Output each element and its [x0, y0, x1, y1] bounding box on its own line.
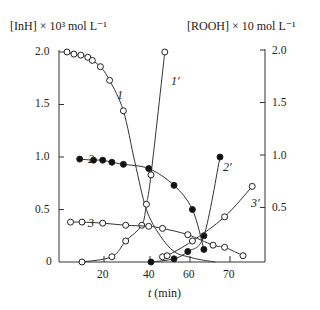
curve-label: 1 — [117, 88, 123, 103]
data-point — [68, 219, 74, 225]
data-point — [120, 161, 126, 167]
x-tick-70: 70 — [223, 268, 235, 280]
y-left-tick-2: 2.0 — [35, 45, 49, 57]
x-tick-40: 40 — [143, 268, 155, 280]
data-point — [210, 242, 216, 248]
curve-label: 2 — [88, 152, 94, 167]
curve-3 — [71, 222, 244, 256]
left-axis-label: [InH] × 10³ mol L⁻¹ — [10, 19, 107, 34]
data-point — [148, 259, 154, 265]
data-point — [185, 232, 191, 238]
y-left-tick-0-5: 0.5 — [35, 203, 49, 215]
y-right-tick-0-5: 0.5 — [272, 201, 286, 213]
data-point — [107, 77, 113, 83]
data-point — [146, 223, 152, 229]
data-point — [109, 159, 115, 165]
data-point — [97, 64, 103, 70]
curve-label: 1′ — [171, 74, 180, 89]
data-point — [77, 156, 83, 162]
data-point — [249, 183, 255, 189]
data-point — [189, 238, 195, 244]
y-right-tick-1: 1.0 — [272, 149, 286, 161]
curve-label: 2′ — [223, 160, 232, 175]
data-point — [123, 238, 129, 244]
data-point — [148, 172, 154, 178]
data-point — [71, 51, 77, 57]
data-point — [64, 49, 70, 55]
data-point — [100, 220, 106, 226]
data-point — [171, 256, 177, 262]
data-point — [139, 222, 145, 228]
data-point — [78, 52, 84, 58]
data-point — [146, 166, 152, 172]
x-tick-20: 20 — [97, 268, 109, 280]
data-point — [143, 201, 149, 207]
y-right-tick-1-5: 1.5 — [272, 96, 286, 108]
data-point — [79, 219, 85, 225]
data-point — [189, 207, 195, 213]
y-left-tick-1: 1.0 — [35, 150, 49, 162]
data-point — [171, 182, 177, 188]
data-point — [201, 246, 207, 252]
data-point — [89, 57, 95, 63]
x-axis-label: t (min) — [148, 286, 181, 301]
data-point — [164, 253, 170, 259]
curve-label: 3 — [88, 216, 94, 231]
data-point — [120, 108, 126, 114]
data-point — [109, 254, 115, 260]
curve-label: 3′ — [251, 196, 260, 211]
data-point — [160, 225, 166, 231]
data-point — [162, 49, 168, 55]
curve-2p — [151, 157, 220, 262]
y-left-tick-1-5: 1.5 — [35, 97, 49, 109]
data-point — [100, 157, 106, 163]
x-tick-60: 60 — [183, 268, 195, 280]
data-point — [222, 244, 228, 250]
data-point — [240, 253, 246, 259]
y-left-tick-0: 0 — [46, 255, 52, 267]
data-point — [79, 259, 85, 265]
data-point — [185, 249, 191, 255]
y-right-tick-2: 2.0 — [272, 44, 286, 56]
right-axis-label: [ROOH] × 10 mol L⁻¹ — [187, 19, 296, 34]
data-point — [123, 222, 129, 228]
data-point — [222, 214, 228, 220]
